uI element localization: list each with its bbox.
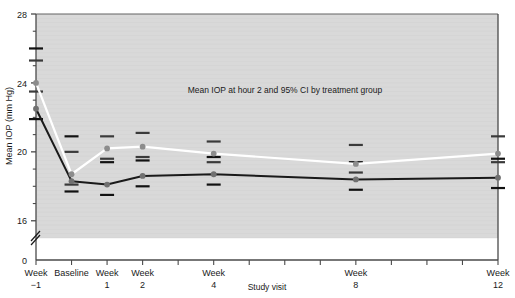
x-tick-label-secondary: 8 — [353, 280, 358, 290]
data-point — [495, 151, 501, 157]
x-tick-label: Week — [131, 268, 154, 278]
y-tick-label: 16 — [17, 216, 27, 226]
y-origin-label: 0 — [22, 256, 27, 266]
x-tick-label-secondary: −1 — [31, 280, 41, 290]
x-tick-label: Week — [25, 268, 48, 278]
data-point — [104, 182, 110, 188]
x-tick-label: Baseline — [54, 268, 89, 278]
y-axis-title: Mean IOP (mm Hg) — [4, 87, 14, 165]
x-tick-label-secondary: 2 — [140, 280, 145, 290]
data-point — [33, 80, 39, 86]
x-tick-label-secondary: 1 — [105, 280, 110, 290]
chart-annotation: Mean IOP at hour 2 and 95% CI by treatme… — [188, 85, 383, 95]
data-point — [140, 173, 146, 179]
data-point — [353, 177, 359, 183]
data-point — [211, 151, 217, 157]
y-tick-label: 20 — [17, 147, 27, 157]
x-tick-label: Week — [487, 268, 510, 278]
x-tick-label: Week — [202, 268, 225, 278]
y-tick-label: 24 — [17, 79, 27, 89]
data-point — [211, 171, 217, 177]
data-point — [104, 146, 110, 152]
x-tick-label-secondary: 4 — [211, 280, 216, 290]
x-tick-label: Week — [344, 268, 367, 278]
x-tick-label: Week — [96, 268, 119, 278]
line-chart: 162024280Week−1BaselineWeek1Week2Week4We… — [0, 0, 515, 298]
data-point — [69, 178, 75, 184]
y-axis-ticks: 16202428 — [17, 10, 36, 227]
chart-figure: 162024280Week−1BaselineWeek1Week2Week4We… — [0, 0, 515, 298]
data-point — [69, 171, 75, 177]
x-axis-title: Study visit — [248, 282, 287, 292]
data-point — [353, 161, 359, 167]
x-tick-label-secondary: 12 — [493, 280, 503, 290]
data-point — [495, 175, 501, 181]
data-point — [140, 144, 146, 150]
x-axis-ticks — [36, 260, 498, 265]
y-tick-label: 28 — [17, 10, 27, 20]
data-point — [33, 106, 39, 112]
